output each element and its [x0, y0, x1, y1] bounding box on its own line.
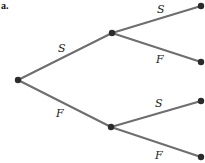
leaf-node-ss [198, 3, 204, 9]
lower-branch-node [108, 124, 114, 130]
leaf-node-fs [198, 98, 204, 104]
edge-label-upper-leaf1: S [157, 3, 165, 16]
edge-label-lower-leaf3: S [155, 97, 163, 110]
edge-root-lower [18, 80, 111, 127]
leaf-node-ff [198, 154, 204, 160]
leaf-node-sf [198, 59, 204, 65]
edge-root-upper [18, 33, 112, 80]
root-node [15, 77, 21, 83]
edge-label-upper-leaf2: F [155, 53, 164, 66]
upper-branch-node [109, 30, 115, 36]
edge-label-lower-leaf4: F [154, 149, 163, 162]
edge-label-root-upper: S [58, 42, 66, 55]
part-label: a. [1, 0, 9, 11]
edge-label-root-lower: F [55, 107, 64, 120]
tree-diagram: a. S F S F S F [0, 0, 205, 163]
